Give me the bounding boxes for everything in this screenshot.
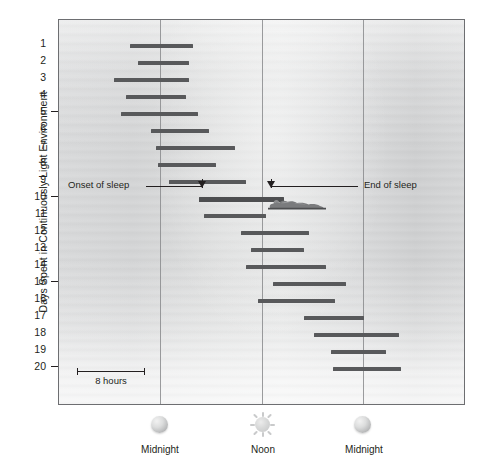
y-tick-label-17: 17	[0, 310, 46, 321]
end-of-sleep-label: End of sleep	[364, 179, 417, 190]
y-tick-label-8: 8	[0, 157, 46, 168]
sleep-bar-day-17	[304, 316, 364, 320]
sleep-bar-day-19	[331, 350, 386, 354]
sleep-bar-day-16	[258, 299, 335, 303]
y-tick-label-19: 19	[0, 344, 46, 355]
y-tick-label-5: 5	[0, 106, 46, 117]
y-tick-label-16: 16	[0, 293, 46, 304]
gridline-noon	[262, 20, 263, 404]
y-tick-label-6: 6	[0, 123, 46, 134]
scale-bar-cap-right	[144, 368, 145, 375]
y-tick-label-14: 14	[0, 259, 46, 270]
moon-icon-right	[354, 416, 371, 433]
y-tick-label-13: 13	[0, 242, 46, 253]
sleep-bar-day-5	[121, 112, 198, 116]
y-tick-mark-20	[51, 366, 58, 367]
y-tick-label-18: 18	[0, 327, 46, 338]
y-tick-mark-15	[51, 281, 58, 282]
y-tick-mark-10	[51, 196, 58, 197]
y-tick-label-20: 20	[0, 361, 46, 372]
y-tick-label-1: 1	[0, 38, 46, 49]
sleep-bar-day-20	[333, 367, 401, 371]
sleep-bar-day-9	[169, 180, 246, 184]
scale-bar-label: 8 hours	[60, 375, 162, 386]
sleep-bar-day-18	[314, 333, 399, 337]
sleep-bar-day-13	[251, 248, 304, 252]
actogram-figure: Days Spent in Continuously Light Environ…	[0, 0, 488, 471]
y-tick-label-7: 7	[0, 140, 46, 151]
scale-bar	[77, 371, 145, 372]
y-tick-label-11: 11	[0, 208, 46, 219]
sleep-bar-day-3	[114, 78, 189, 82]
sleep-bar-day-4	[126, 95, 186, 99]
sleep-bar-day-2	[138, 61, 189, 65]
onset-of-sleep-label: Onset of sleep	[68, 179, 129, 190]
sleep-bar-day-6	[151, 129, 209, 133]
sleep-bar-day-7	[156, 146, 235, 150]
sleep-bar-day-15	[273, 282, 346, 286]
y-tick-label-10: 10	[0, 191, 46, 202]
gridline-midnight-right	[363, 20, 364, 404]
plot-panel	[58, 19, 465, 405]
sleep-bar-day-8	[158, 163, 216, 167]
end-leader-line	[272, 186, 358, 187]
y-tick-label-15: 15	[0, 276, 46, 287]
onset-arrow-icon	[198, 181, 206, 188]
y-tick-mark-5	[51, 111, 58, 112]
sleep-bar-day-1	[130, 44, 193, 48]
sun-icon	[250, 412, 275, 437]
x-axis-label-midnight-left: Midnight	[100, 444, 220, 455]
sleep-bar-day-12	[241, 231, 309, 235]
sleep-bar-day-11	[204, 214, 266, 218]
sleep-bar-day-14	[246, 265, 326, 269]
y-tick-label-12: 12	[0, 225, 46, 236]
onset-leader-line	[146, 186, 202, 187]
sleep-bar-day-10	[199, 197, 284, 202]
y-tick-label-4: 4	[0, 89, 46, 100]
scale-bar-cap-left	[77, 368, 78, 375]
moon-icon-left	[151, 416, 168, 433]
y-tick-label-2: 2	[0, 55, 46, 66]
x-axis-label-midnight-right: Midnight	[304, 444, 424, 455]
end-arrow-icon	[267, 181, 275, 188]
y-tick-label-9: 9	[0, 174, 46, 185]
y-tick-label-3: 3	[0, 72, 46, 83]
